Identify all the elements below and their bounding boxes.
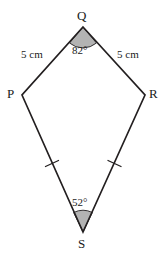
vertex-label-p: P	[7, 87, 14, 100]
side-length-label-qr: 5 cm	[117, 49, 139, 60]
kite-diagram-svg	[0, 0, 166, 260]
side-length-label-pq: 5 cm	[21, 49, 43, 60]
geometry-figure-kite-pqrs: Q P R S 5 cm 5 cm 82° 52°	[0, 0, 166, 260]
angle-measure-label-s: 52°	[72, 197, 87, 208]
angle-measure-label-q: 82°	[72, 45, 87, 56]
vertex-label-q: Q	[77, 9, 86, 22]
vertex-label-r: R	[149, 87, 158, 100]
vertex-label-s: S	[78, 237, 85, 250]
angle-sector-s-shading	[74, 210, 93, 232]
